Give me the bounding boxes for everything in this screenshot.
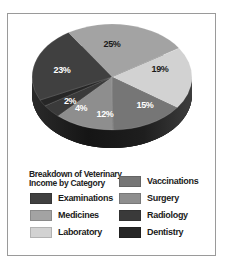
legend-label-vaccinations: Vaccinations (147, 176, 198, 186)
label-examinations: 23% (54, 65, 71, 75)
legend-item-dentistry: Dentistry (119, 226, 183, 238)
label-laboratory: 19% (152, 64, 169, 74)
legend-item-vaccinations: Vaccinations (119, 175, 198, 187)
swatch-medicines (30, 210, 52, 221)
legend-item-examinations: Examinations (30, 192, 113, 204)
legend-label-surgery: Surgery (147, 193, 179, 203)
legend-title-line2: Income by Category (29, 179, 122, 188)
swatch-surgery (119, 193, 141, 204)
legend-title: Breakdown of Veterinary Income by Catego… (29, 170, 122, 188)
legend-item-radiology: Radiology (119, 209, 188, 221)
label-surgery: 12% (97, 109, 114, 119)
swatch-radiology (119, 210, 141, 221)
swatch-vaccinations (119, 176, 141, 187)
legend-label-examinations: Examinations (58, 193, 113, 203)
label-radiology: 4% (75, 103, 88, 113)
legend-label-dentistry: Dentistry (147, 227, 183, 237)
label-medicines: 25% (104, 39, 121, 49)
legend-item-laboratory: Laboratory (30, 226, 102, 238)
legend-label-laboratory: Laboratory (58, 227, 102, 237)
label-vaccinations: 15% (137, 100, 154, 110)
legend-label-radiology: Radiology (147, 210, 188, 220)
legend-item-surgery: Surgery (119, 192, 179, 204)
swatch-dentistry (119, 227, 141, 238)
legend-label-medicines: Medicines (58, 210, 99, 220)
legend-item-medicines: Medicines (30, 209, 99, 221)
swatch-laboratory (30, 227, 52, 238)
label-dentistry: 2% (64, 96, 77, 106)
pie-chart: 25% 19% 15% 12% 4% 2% 23% (0, 0, 228, 264)
swatch-examinations (30, 193, 52, 204)
